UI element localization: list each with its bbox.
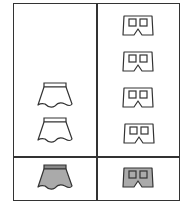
skirt-key-icon bbox=[37, 164, 74, 191]
shorts-key-icon bbox=[121, 167, 155, 189]
shorts-icon bbox=[121, 15, 155, 37]
shorts-icon bbox=[122, 123, 156, 145]
column-divider bbox=[96, 4, 98, 200]
shorts-icon bbox=[121, 51, 155, 73]
skirt-icon bbox=[37, 82, 74, 109]
key-row-divider bbox=[14, 156, 179, 158]
skirt-icon bbox=[37, 117, 74, 144]
shorts-icon bbox=[121, 87, 155, 109]
